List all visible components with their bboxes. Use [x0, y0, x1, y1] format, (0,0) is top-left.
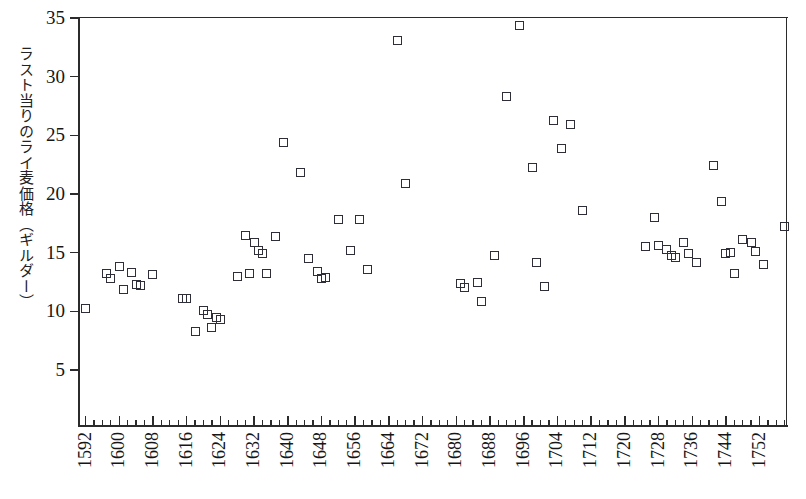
data-point	[304, 254, 313, 263]
data-point	[393, 36, 402, 45]
x-tick-label-1680: 1680	[446, 432, 464, 468]
data-point	[747, 238, 756, 247]
data-point	[115, 262, 124, 271]
x-tick-label-1616: 1616	[177, 432, 195, 468]
data-point	[528, 163, 537, 172]
data-point	[106, 274, 115, 283]
data-point	[557, 144, 566, 153]
data-point	[460, 283, 469, 292]
data-point	[709, 161, 718, 170]
data-point	[641, 242, 650, 251]
data-point	[679, 238, 688, 247]
x-tick-label-1736: 1736	[682, 432, 700, 468]
data-point	[650, 213, 659, 222]
data-point	[473, 278, 482, 287]
data-point	[119, 285, 128, 294]
data-point	[549, 116, 558, 125]
x-tick-label-1720: 1720	[615, 432, 633, 468]
data-point	[671, 253, 680, 262]
y-tick-label-10: 10	[25, 301, 65, 320]
data-point	[692, 258, 701, 267]
x-tick-label-1664: 1664	[379, 432, 397, 468]
data-point	[490, 251, 499, 260]
x-tick-label-1656: 1656	[345, 432, 363, 468]
data-point	[363, 265, 372, 274]
x-tick-label-1696: 1696	[514, 432, 532, 468]
x-tick-label-1712: 1712	[581, 432, 599, 468]
data-point	[566, 120, 575, 129]
y-tick-label-5: 5	[25, 360, 65, 379]
x-tick-label-1648: 1648	[311, 432, 329, 468]
data-point	[271, 232, 280, 241]
x-tick-label-1744: 1744	[716, 432, 734, 468]
data-point	[346, 246, 355, 255]
x-tick-label-1608: 1608	[143, 432, 161, 468]
x-tick-label-1728: 1728	[649, 432, 667, 468]
x-tick-label-1600: 1600	[109, 432, 127, 468]
x-tick-label-1752: 1752	[750, 432, 768, 468]
data-point	[540, 282, 549, 291]
data-point	[279, 138, 288, 147]
data-point	[245, 269, 254, 278]
data-point	[148, 270, 157, 279]
x-tick-label-1624: 1624	[210, 432, 228, 468]
data-point	[81, 304, 90, 313]
data-point	[127, 268, 136, 277]
scatter-chart: ラスト当りのライ麦価格（ギルダー） 5101520253035 15921600…	[0, 0, 806, 499]
data-point	[321, 273, 330, 282]
data-point	[726, 248, 735, 257]
x-tick-label-1632: 1632	[244, 432, 262, 468]
data-point	[515, 21, 524, 30]
data-point	[334, 215, 343, 224]
data-point	[477, 297, 486, 306]
data-point	[355, 215, 364, 224]
data-point	[207, 323, 216, 332]
data-point	[717, 197, 726, 206]
x-tick-label-1688: 1688	[480, 432, 498, 468]
data-point	[233, 272, 242, 281]
data-point	[751, 247, 760, 256]
y-tick-label-20: 20	[25, 184, 65, 203]
data-point	[759, 260, 768, 269]
x-tick-label-1592: 1592	[76, 432, 94, 468]
data-point	[730, 269, 739, 278]
y-tick-label-15: 15	[25, 243, 65, 262]
x-tick-label-1672: 1672	[413, 432, 431, 468]
x-tick-label-1704: 1704	[547, 432, 565, 468]
x-tick-label-1640: 1640	[278, 432, 296, 468]
data-point	[578, 206, 587, 215]
data-point	[262, 269, 271, 278]
data-point	[502, 92, 511, 101]
y-tick-label-25: 25	[25, 125, 65, 144]
plot-area	[78, 18, 787, 426]
data-point	[532, 258, 541, 267]
data-point	[401, 179, 410, 188]
y-tick-label-35: 35	[25, 8, 65, 27]
y-tick-label-30: 30	[25, 67, 65, 86]
data-point	[296, 168, 305, 177]
data-point	[182, 294, 191, 303]
data-point	[136, 281, 145, 290]
data-point	[216, 315, 225, 324]
data-point	[780, 222, 789, 231]
data-point	[258, 249, 267, 258]
data-point	[191, 327, 200, 336]
y-axis-title: ラスト当りのライ麦価格（ギルダー）	[6, 46, 32, 391]
